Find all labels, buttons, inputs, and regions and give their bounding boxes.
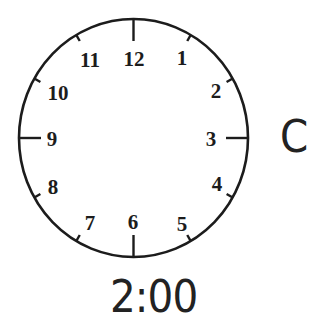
hour-tick xyxy=(187,35,191,41)
clock-number-10: 10 xyxy=(48,81,69,105)
clock-number-7: 7 xyxy=(85,211,96,235)
clock-number-6: 6 xyxy=(128,210,139,234)
clock-number-12: 12 xyxy=(124,47,145,71)
clock-number-1: 1 xyxy=(177,46,188,70)
clock-number-5: 5 xyxy=(177,212,188,236)
hour-tick xyxy=(34,79,40,83)
hour-tick xyxy=(227,79,233,83)
hour-tick xyxy=(34,194,40,198)
option-label: C xyxy=(280,115,308,159)
hour-tick xyxy=(187,235,191,241)
clock-number-3: 3 xyxy=(206,127,217,151)
hour-tick xyxy=(227,194,233,198)
clock-number-2: 2 xyxy=(211,79,222,103)
clock-number-11: 11 xyxy=(80,48,100,72)
hour-tick xyxy=(76,35,80,41)
clock-number-9: 9 xyxy=(47,127,58,151)
time-label: 2:00 xyxy=(110,274,197,319)
clock-numbers: 121234567891011 xyxy=(47,46,223,236)
clock-number-8: 8 xyxy=(48,175,59,199)
clock-number-4: 4 xyxy=(212,172,223,196)
hour-tick xyxy=(76,235,80,241)
